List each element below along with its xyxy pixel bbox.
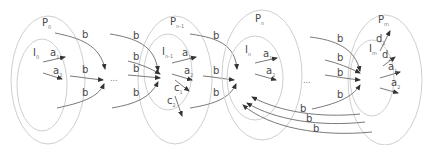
region-pn: Pn In a1 a2 [222, 10, 302, 140]
region-pm: Pm Im d1 d2 a1 a2 b b b b [310, 14, 422, 145]
label-pn: Pn [255, 13, 264, 26]
arrow-b-in-pm-1 [310, 37, 360, 71]
transition-diagram: P0 I0 a1 a2 b b b ... Pn-1 In-1 a1 a2 c1… [0, 0, 423, 145]
label-pm: Pm [378, 14, 389, 27]
label-b-in-pm-1: b [337, 33, 343, 44]
label-in-1: In-1 [162, 46, 173, 59]
label-b-out-pn-1-3: b [213, 87, 219, 98]
label-b-out-pn-1-1: b [213, 30, 219, 41]
label-b-in-pm-2: b [337, 52, 343, 63]
label-im: Im [369, 43, 377, 56]
label-b-out-pn-1-2: b [213, 65, 219, 76]
label-a2-p0: a2 [53, 65, 62, 78]
label-p0: P0 [42, 17, 51, 30]
arrow-c2-pn-1 [175, 96, 182, 116]
label-b-back-3: b [313, 123, 319, 134]
inner-ellipse-i0 [17, 39, 67, 131]
label-a1-pn: a1 [263, 48, 272, 61]
label-d1-pm: d1 [376, 33, 386, 46]
label-b-p0-2: b [82, 64, 88, 75]
region-p0: P0 I0 a1 a2 b b b [11, 16, 105, 144]
label-b-in-pn-1-1: b [133, 30, 139, 41]
ellipsis-2: ... [303, 76, 311, 85]
back-arrows: b b b [243, 97, 372, 134]
arrow-b-p0-2 [70, 76, 103, 80]
region-pn-1: Pn-1 In-1 a1 a2 c1 c2 b b b b b b b [110, 16, 237, 144]
label-a2-pn: a2 [266, 65, 275, 78]
label-in: In [245, 44, 251, 57]
ellipsis-1: ... [110, 74, 118, 83]
label-b-in-pn-1-4: b [133, 87, 139, 98]
label-b-in-pn-1-2: b [133, 51, 139, 62]
label-a1-pm: a1 [388, 61, 397, 74]
label-a2-pm: a2 [391, 77, 400, 90]
label-b-p0-3: b [82, 87, 88, 98]
arrow-a2-pm [380, 88, 398, 93]
label-b-in-pm-3: b [337, 67, 343, 78]
label-b-back-2: b [306, 113, 312, 124]
outer-ellipse-pn [222, 10, 302, 140]
label-pn-1: Pn-1 [170, 16, 184, 29]
label-b-p0-1: b [82, 29, 88, 40]
label-b-in-pm-4: b [337, 89, 343, 100]
arrow-b-p0-3 [57, 84, 104, 108]
arrow-b-p0-1 [55, 33, 105, 69]
label-c1-pn-1: c1 [174, 82, 183, 95]
label-b-in-pn-1-3: b [133, 63, 139, 74]
label-i0: I0 [33, 47, 39, 60]
arrow-b-out-pn-1-2 [203, 76, 234, 80]
label-c2-pn-1: c2 [167, 95, 176, 108]
outer-ellipse-p0 [11, 16, 85, 144]
label-a1-pn-1: a1 [182, 47, 191, 60]
